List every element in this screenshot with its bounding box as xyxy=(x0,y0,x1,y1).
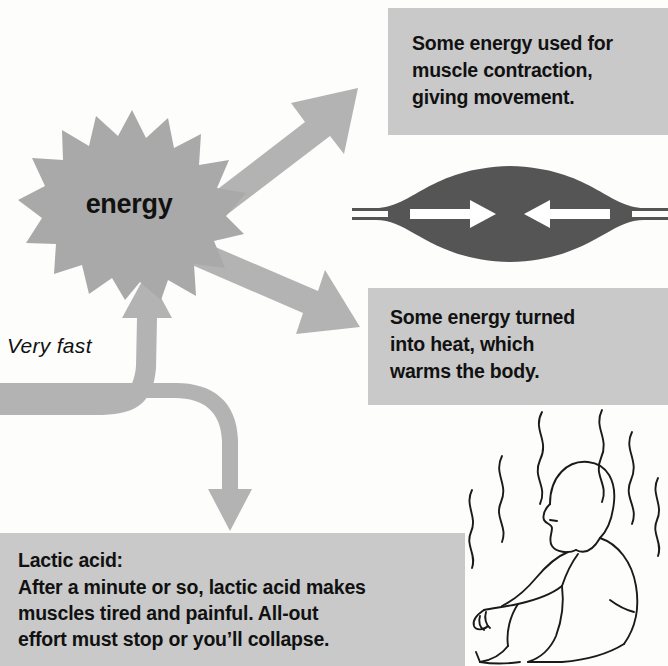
lactic-line-1: After a minute or so, lactic acid makes xyxy=(18,575,465,601)
movement-line-1: Some energy used for xyxy=(412,30,668,57)
lactic-line-3: effort must stop or you’ll collapse. xyxy=(18,627,465,653)
movement-line-2: muscle contraction, xyxy=(412,57,668,84)
heat-wave-lines-icon xyxy=(469,410,659,568)
info-box-lactic-acid: Lactic acid: After a minute or so, lacti… xyxy=(0,533,465,666)
info-box-heat: Some energy turned into heat, which warm… xyxy=(368,288,668,405)
heat-line-2: into heat, which xyxy=(390,331,668,358)
energy-node-label: energy xyxy=(18,108,246,300)
heat-line-1: Some energy turned xyxy=(390,304,668,331)
lactic-acid-heading: Lactic acid: xyxy=(18,547,465,574)
tired-person-illustration xyxy=(462,404,668,666)
diagram-canvas: energy Some energy used for muscle contr… xyxy=(0,0,668,666)
info-box-movement: Some energy used for muscle contraction,… xyxy=(388,8,668,135)
very-fast-label: Very fast xyxy=(7,334,92,358)
heat-line-3: warms the body. xyxy=(390,358,668,385)
movement-line-3: giving movement. xyxy=(412,84,668,111)
muscle-contraction-icon xyxy=(352,158,668,270)
lactic-line-2: muscles tired and painful. All-out xyxy=(18,601,465,627)
